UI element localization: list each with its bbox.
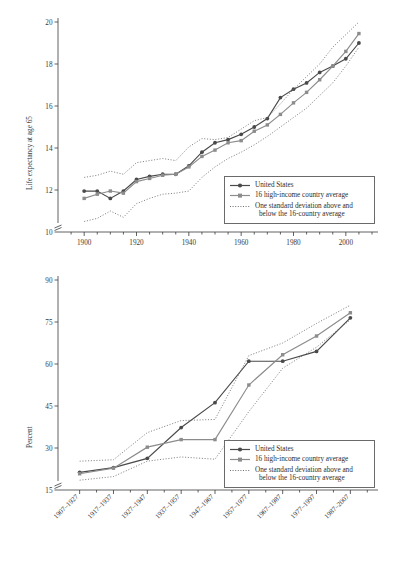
legend-label: United States bbox=[255, 445, 294, 454]
legend-label-multiline: One standard deviation above andbelow th… bbox=[255, 466, 353, 483]
data-point-marker bbox=[200, 155, 203, 158]
x-tick-label: 1960 bbox=[234, 239, 249, 247]
y-axis-title-bottom: Percent bbox=[26, 426, 34, 448]
x-tick-label: 1907–1927 bbox=[52, 492, 80, 520]
x-tick-label: 1980 bbox=[286, 239, 301, 247]
legend-label: United States bbox=[255, 181, 294, 190]
y-tick-label: 75 bbox=[45, 319, 53, 327]
data-point-marker bbox=[265, 117, 269, 121]
x-tick-label: 1957–1977 bbox=[221, 492, 249, 520]
y-tick-label: 90 bbox=[45, 277, 53, 285]
data-point-marker bbox=[95, 189, 99, 193]
data-point-marker bbox=[357, 32, 360, 35]
data-point-marker bbox=[318, 78, 321, 81]
data-point-marker bbox=[239, 139, 242, 142]
legend-label-line1: One standard deviation above and bbox=[255, 466, 353, 474]
y-tick-label: 20 bbox=[45, 19, 53, 27]
legend-item-country-average: 16 high-income country average bbox=[229, 455, 369, 464]
data-point-marker bbox=[252, 125, 256, 129]
data-point-marker bbox=[226, 138, 230, 142]
x-tick-label: 1917–1937 bbox=[86, 492, 114, 520]
data-point-marker bbox=[266, 123, 269, 126]
data-point-marker bbox=[239, 132, 243, 136]
dotted-line-icon bbox=[229, 202, 251, 211]
data-point-marker bbox=[253, 130, 256, 133]
legend-top: United States 16 high-income country ave… bbox=[224, 176, 375, 224]
dotted-line-icon bbox=[229, 466, 251, 475]
y-tick-label: 30 bbox=[45, 445, 53, 453]
data-point-marker bbox=[226, 141, 229, 144]
data-point-marker bbox=[349, 311, 352, 314]
data-point-marker bbox=[281, 353, 284, 356]
data-point-marker bbox=[135, 180, 138, 183]
y-axis-title-top: Life expectancy at age 65 bbox=[26, 116, 34, 190]
x-tick-label: 1947–1967 bbox=[187, 492, 215, 520]
data-point-marker bbox=[161, 174, 164, 177]
legend-label-line1: One standard deviation above and bbox=[255, 202, 353, 210]
legend-bottom: United States 16 high-income country ave… bbox=[224, 440, 375, 488]
data-point-marker bbox=[146, 445, 149, 448]
data-point-marker bbox=[331, 64, 334, 67]
legend-label: 16 high-income country average bbox=[255, 455, 348, 464]
series-line bbox=[84, 34, 359, 199]
x-tick-label: 1967–1987 bbox=[255, 492, 283, 520]
data-point-marker bbox=[292, 101, 295, 104]
series-line bbox=[84, 22, 359, 177]
data-point-marker bbox=[200, 150, 204, 154]
data-point-marker bbox=[305, 81, 309, 85]
data-point-marker bbox=[109, 189, 112, 192]
data-point-marker bbox=[281, 359, 285, 363]
x-tick-label: 1927–1947 bbox=[120, 492, 148, 520]
data-point-marker bbox=[315, 350, 319, 354]
y-tick-label: 45 bbox=[45, 403, 53, 411]
x-tick-label: 1900 bbox=[77, 239, 92, 247]
data-point-marker bbox=[108, 197, 112, 201]
x-tick-label: 1940 bbox=[182, 239, 197, 247]
data-point-marker bbox=[213, 148, 216, 151]
data-point-marker bbox=[344, 57, 348, 61]
data-point-marker bbox=[213, 401, 217, 405]
legend-label-line2: below the 16-country average bbox=[255, 474, 353, 483]
x-tick-label: 1920 bbox=[129, 239, 144, 247]
data-point-marker bbox=[82, 189, 86, 193]
y-tick-label: 12 bbox=[45, 187, 53, 195]
line-marker-circle-dark-icon bbox=[229, 445, 251, 454]
x-tick-label: 1987–2007 bbox=[323, 492, 351, 520]
data-point-marker bbox=[148, 177, 151, 180]
data-point-marker bbox=[213, 438, 216, 441]
y-tick-label: 16 bbox=[45, 103, 53, 111]
data-point-marker bbox=[179, 438, 182, 441]
y-tick-label: 18 bbox=[45, 61, 53, 69]
data-point-marker bbox=[145, 456, 149, 460]
plot-area-bottom: 1530456075901907–19271917–19371927–19471… bbox=[0, 258, 396, 564]
y-tick-label: 15 bbox=[45, 487, 53, 495]
series-line bbox=[80, 305, 351, 461]
y-tick-label: 10 bbox=[45, 229, 53, 237]
line-marker-square-grey-icon bbox=[229, 191, 251, 200]
data-point-marker bbox=[187, 165, 190, 168]
data-point-marker bbox=[279, 96, 283, 100]
data-point-marker bbox=[247, 359, 251, 363]
x-tick-label: 2000 bbox=[339, 239, 354, 247]
legend-label: 16 high-income country average bbox=[255, 191, 348, 200]
percent-panel: Percent 1530456075901907–19271917–193719… bbox=[0, 258, 396, 564]
data-point-marker bbox=[344, 50, 347, 53]
legend-item-united-states: United States bbox=[229, 181, 369, 190]
data-point-marker bbox=[213, 141, 217, 145]
legend-label-multiline: One standard deviation above andbelow th… bbox=[255, 202, 353, 219]
x-tick-label: 1977–1997 bbox=[289, 492, 317, 520]
data-point-marker bbox=[247, 383, 250, 386]
legend-item-std-dev: One standard deviation above andbelow th… bbox=[229, 202, 369, 219]
data-point-marker bbox=[305, 91, 308, 94]
data-point-marker bbox=[179, 426, 183, 430]
data-point-marker bbox=[348, 316, 352, 320]
data-point-marker bbox=[279, 113, 282, 116]
y-tick-label: 60 bbox=[45, 361, 53, 369]
data-point-marker bbox=[174, 173, 177, 176]
data-point-marker bbox=[82, 197, 85, 200]
data-point-marker bbox=[112, 466, 115, 469]
legend-item-country-average: 16 high-income country average bbox=[229, 191, 369, 200]
x-tick-label: 1937–1957 bbox=[154, 492, 182, 520]
data-point-marker bbox=[78, 472, 81, 475]
legend-item-std-dev: One standard deviation above andbelow th… bbox=[229, 466, 369, 483]
